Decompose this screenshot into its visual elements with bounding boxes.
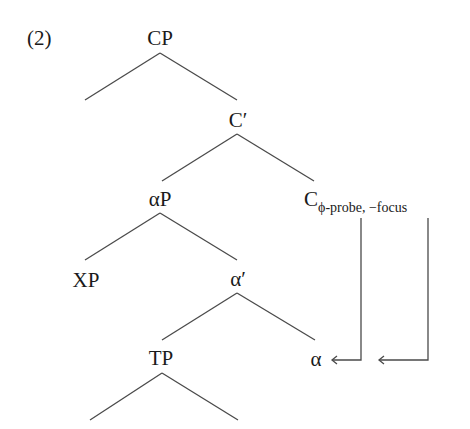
branch-cp-right bbox=[160, 53, 237, 100]
node-cp: CP bbox=[147, 28, 173, 49]
branch-alphabar-right bbox=[237, 293, 315, 340]
arrow-focus bbox=[379, 218, 428, 360]
branch-tp-right bbox=[162, 373, 238, 420]
branch-tp-left bbox=[90, 373, 162, 420]
branch-cbar-right bbox=[237, 134, 314, 181]
c-head-subscript: ϕ-probe, −focus bbox=[318, 200, 407, 215]
branch-cp-left bbox=[85, 53, 160, 100]
node-alpha-bar: α′ bbox=[230, 269, 246, 290]
node-c-head: Cϕ-probe, −focus bbox=[304, 189, 407, 210]
branch-cbar-left bbox=[162, 134, 237, 181]
tree-branches bbox=[0, 0, 470, 429]
c-head-label: C bbox=[304, 187, 318, 211]
example-number: (2) bbox=[27, 28, 52, 49]
branch-alphap-left bbox=[85, 213, 160, 260]
syntax-tree-diagram: (2) CP C′ αP Cϕ-probe, −focus XP α′ TP α bbox=[0, 0, 470, 429]
arrow-phi-probe bbox=[332, 218, 361, 360]
node-alpha-head: α bbox=[310, 349, 321, 370]
node-c-bar: C′ bbox=[229, 110, 248, 131]
node-xp: XP bbox=[73, 270, 100, 291]
branch-alphap-right bbox=[160, 213, 237, 260]
node-tp: TP bbox=[149, 348, 174, 369]
node-alpha-p: αP bbox=[149, 189, 172, 210]
branch-alphabar-left bbox=[162, 293, 237, 340]
